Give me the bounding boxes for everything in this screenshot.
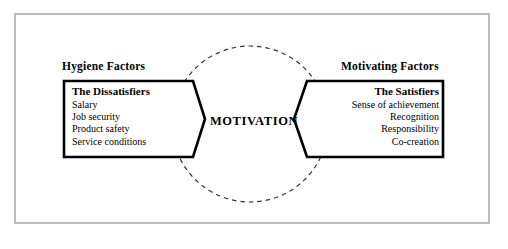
hygiene-factors-heading: Hygiene Factors bbox=[62, 60, 145, 72]
list-item: Co-creation bbox=[352, 136, 439, 148]
list-item: Sense of achievement bbox=[352, 99, 439, 111]
list-item: Salary bbox=[72, 99, 150, 111]
motivation-center-label-text: MOTIVATION bbox=[210, 114, 298, 129]
motivation-center-label: MOTIVATION bbox=[0, 114, 508, 129]
diagram-canvas: Hygiene Factors Motivating Factors The D… bbox=[0, 0, 508, 249]
dissatisfiers-title: The Dissatisfiers bbox=[72, 85, 150, 98]
list-item: Service conditions bbox=[72, 136, 150, 148]
satisfiers-title: The Satisfiers bbox=[352, 85, 439, 98]
motivating-factors-heading: Motivating Factors bbox=[341, 60, 439, 72]
